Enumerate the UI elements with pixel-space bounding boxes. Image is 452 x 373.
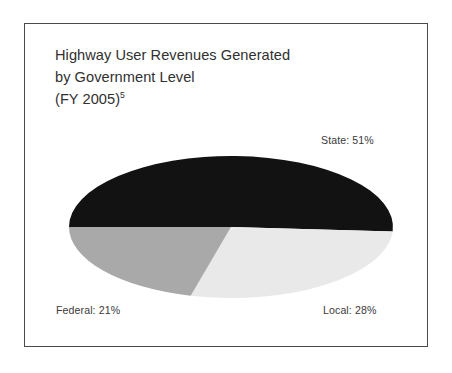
- clipped-header-text: [14, 0, 40, 4]
- pie-label-federal: Federal: 21%: [56, 304, 120, 316]
- pie-slice-state: [69, 156, 393, 231]
- pie-slices: [69, 156, 393, 298]
- pie-label-local: Local: 28%: [323, 304, 376, 316]
- figure-frame: Highway User Revenues Generated by Gover…: [24, 23, 428, 347]
- pie-label-state: State: 51%: [321, 134, 374, 146]
- pie-chart-svg: [25, 24, 429, 348]
- pie-chart: State: 51% Federal: 21% Local: 28%: [25, 24, 429, 348]
